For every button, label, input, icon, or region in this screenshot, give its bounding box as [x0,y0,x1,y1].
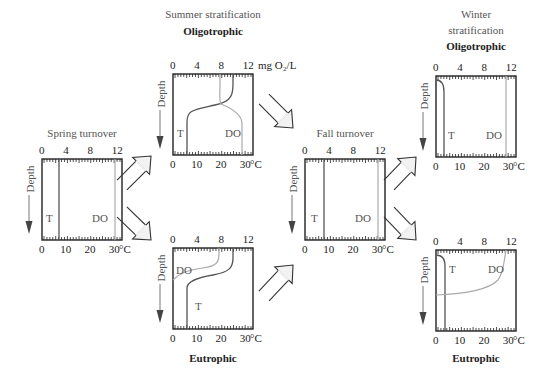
winter-oligo-temperature-tick-label: 20 [478,160,489,172]
fall-depth-label: Depth [287,162,299,196]
summer-eutro-frame [173,248,253,329]
fall-oxygen-tick-label: 8 [350,144,356,156]
summer-eutro-depth-label: Depth [155,251,167,285]
spring-temperature-tick-label: 20 [84,243,95,255]
summer-eutro-oxygen-tick-label: 4 [194,233,200,245]
spring-depth-label: Depth [24,162,36,196]
summer-eutro-temperature-tick-label: 0 [170,332,176,344]
summer-eutro-temperature-tick-label: 20 [215,332,226,344]
winter-oligotrophic-label: Oligotrophic [446,40,506,52]
fall-do-label: DO [355,212,371,224]
arrow-spring-to-summer-eutro-shaft-b [127,207,146,225]
fall-temperature-tick-label: 0 [302,243,308,255]
winter-eutro-temperature-tick-label: 10 [454,334,465,346]
fall-temperature-unit: °C [382,243,394,255]
summer-oligo-frame [173,74,253,155]
winter-eutro-oxygen-tick-label: 4 [457,235,463,247]
summer-eutrophic-label: Eutrophic [189,352,236,364]
summer-eutro-depth-arrow-icon [157,310,164,323]
arrow-spring-to-summer-oligo-shaft-a [127,171,146,190]
summer-eutro-oxygen-tick-label: 12 [243,233,254,245]
summer-eutro-temperature-tick-label: 10 [191,332,202,344]
arrow-fall-to-winter-oligo-shaft-b [384,162,401,180]
winter-title-line2: stratification [448,24,504,36]
summer-oligo-temperature-tick-label: 20 [215,158,226,170]
arrow-spring-to-summer-oligo-head [133,156,151,174]
summer-oligo-oxygen-tick-label: 0 [170,59,176,71]
winter-eutro-oxygen-tick-label: 0 [433,235,439,247]
winter-eutro-depth-arrow-icon [420,312,427,325]
arrow-summer-oligo-to-fall-head [275,110,293,128]
winter-oligo-frame [436,76,516,157]
winter-oligo-temperature-unit: °C [513,160,525,172]
fall-depth-arrow-icon [289,221,296,234]
winter-eutro-depth-label: Depth [418,253,430,287]
winter-eutro-t-label: T [449,263,456,275]
arrow-fall-to-winter-eutro-shaft-b [394,207,411,225]
fall-oxygen-tick-label: 0 [302,144,308,156]
winter-oligo-oxygen-tick-label: 12 [506,61,517,73]
spring-temperature-tick-label: 10 [60,243,71,255]
arrow-summer-eutro-to-fall-shaft-a [269,280,288,301]
fall-frame [305,159,385,240]
summer-eutro-oxygen-tick-label: 8 [218,233,224,245]
summer-eutro-t-label: T [195,300,202,312]
winter-eutro-do-label: DO [488,263,504,275]
winter-oligo-temperature-tick-label: 10 [454,160,465,172]
winter-eutro-temperature-unit: °C [513,334,525,346]
spring-oxygen-tick-label: 8 [87,144,93,156]
summer-oligo-oxygen-tick-label: 12 [243,59,254,71]
winter-eutro-oxygen-tick-label: 8 [481,235,487,247]
spring-oxygen-tick-label: 0 [39,144,45,156]
summer-oligo-depth-arrow-icon [157,136,164,149]
fall-temperature-tick-label: 20 [347,243,358,255]
summer-eutro-oxygen-tick-label: 0 [170,233,176,245]
winter-oligo-t-label: T [448,129,455,141]
winter-oligo-oxygen-tick-label: 0 [433,61,439,73]
winter-title-line1: Winter [461,8,491,20]
summer-oligo-oxygen-tick-label: 8 [218,59,224,71]
winter-oligo-depth-arrow-icon [420,138,427,151]
spring-t-label: T [46,212,53,224]
diagram-canvas [0,0,544,375]
winter-eutro-temperature-tick-label: 20 [478,334,489,346]
fall-temperature-tick-label: 10 [323,243,334,255]
winter-oligo-do-label: DO [486,129,502,141]
winter-eutro-temperature-tick-label: 0 [433,334,439,346]
summer-oligo-do-label: DO [225,127,241,139]
spring-title: Spring turnover [47,127,116,139]
summer-oligo-temperature-tick-label: 10 [191,158,202,170]
fall-t-label: T [311,212,318,224]
arrow-summer-eutro-to-fall-shaft-b [259,270,278,291]
summer-oligotrophic-label: Oligotrophic [183,25,243,37]
arrow-spring-to-summer-eutro-head [133,222,151,240]
spring-oxygen-tick-label: 12 [112,144,123,156]
spring-frame [42,159,122,240]
spring-depth-arrow-icon [26,221,33,234]
fall-oxygen-tick-label: 12 [375,144,386,156]
spring-temperature-tick-label: 0 [39,243,45,255]
winter-eutro-oxygen-tick-label: 12 [506,235,517,247]
summer-oligo-depth-label: Depth [155,77,167,111]
fall-oxygen-tick-label: 4 [326,144,332,156]
lake-seasonal-cycle-diagram: Spring turnover Summer stratification Ol… [0,0,544,375]
summer-eutro-do-label: DO [176,264,192,276]
spring-oxygen-tick-label: 4 [63,144,69,156]
summer-oligo-temperature-tick-label: 0 [170,158,176,170]
summer-oligo-oxygen-tick-label: 4 [194,59,200,71]
arrow-fall-to-winter-oligo-head [398,157,416,175]
winter-oligo-depth-label: Depth [418,79,430,113]
arrow-fall-to-winter-eutro-head [398,222,416,240]
arrow-summer-oligo-to-fall-shaft-a [259,104,278,123]
spring-do-label: DO [92,212,108,224]
summer-eutro-temperature-unit: °C [250,332,262,344]
spring-temperature-unit: °C [119,243,131,255]
winter-oligo-temperature-tick-label: 0 [433,160,439,172]
arrow-summer-eutro-to-fall-head [275,265,293,283]
winter-oligo-oxygen-tick-label: 8 [481,61,487,73]
summer-oligo-oxygen-unit: mg O₂/L [258,59,296,71]
fall-title: Fall turnover [316,127,373,139]
arrow-fall-to-winter-oligo-shaft-a [394,172,411,190]
arrow-fall-to-winter-eutro-shaft-a [384,217,401,235]
summer-title: Summer stratification [165,8,261,20]
